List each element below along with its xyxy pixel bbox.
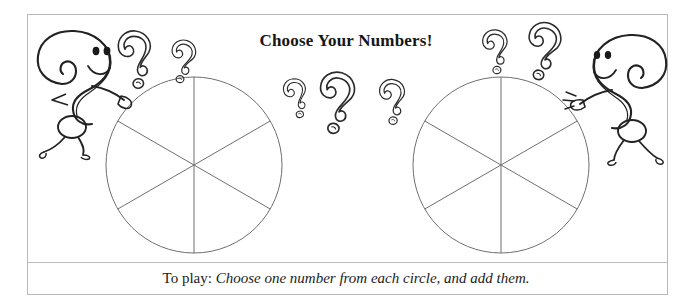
right-character-arm [580, 90, 612, 104]
question-mark-icon [281, 76, 312, 120]
right-character-smile [594, 70, 616, 78]
left-character-leg-b [78, 137, 84, 155]
left-character-smile [88, 66, 110, 74]
left-character-dot [58, 116, 86, 138]
question-mark-icon [317, 71, 355, 135]
right-character-foot-b [608, 160, 616, 165]
worksheet-page: Choose Your Numbers! To play: Choose one… [0, 0, 692, 308]
question-mark-icon [523, 21, 563, 82]
left-character-foot-a [40, 152, 47, 158]
caption: To play: Choose one number from each cir… [0, 270, 692, 287]
right-character-dot [618, 120, 646, 142]
right-character-leg-b [614, 140, 624, 160]
page-title: Choose Your Numbers! [0, 31, 692, 51]
left-character-hook-inner [61, 61, 76, 84]
right-character-eye-right [594, 51, 600, 59]
left-character-leg-a [44, 137, 65, 152]
caption-body: Choose one number from each circle, and … [216, 270, 530, 286]
left-character-arm [92, 86, 124, 100]
right-character-hook-inner [628, 65, 643, 88]
right-character-leg-a [639, 141, 657, 158]
caption-lead: To play: [163, 270, 212, 286]
right-character-eye-left [605, 51, 611, 59]
left-circle[interactable] [106, 77, 282, 253]
right-circle[interactable] [413, 77, 589, 253]
left-character-foot-b [81, 155, 90, 159]
right-character-foot-a [656, 158, 663, 164]
question-mark-icon [379, 79, 407, 126]
left-character-nose [52, 94, 68, 105]
